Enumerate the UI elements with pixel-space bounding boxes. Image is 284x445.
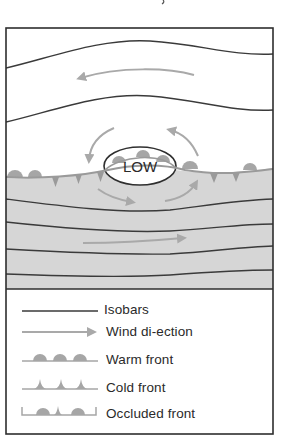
low-label: LOW [123, 158, 158, 175]
legend-label-wind-direction: Wind di-ection [106, 324, 193, 339]
legend-cold-front-icon [22, 379, 98, 389]
legend-label-occluded-front: Occluded front [106, 406, 195, 421]
legend-label-cold-front: Cold front [106, 380, 166, 395]
map-area: LOW [6, 28, 273, 289]
legend-occluded-front-icon [22, 406, 96, 415]
legend-warm-front-icon [22, 354, 98, 361]
legend-label-warm-front: Warm front [106, 352, 173, 367]
weather-diagram: LOW [0, 0, 284, 445]
legend-label-isobars: Isobars [104, 302, 149, 317]
legend-symbols [22, 311, 98, 415]
title-fragment [162, 0, 164, 4]
